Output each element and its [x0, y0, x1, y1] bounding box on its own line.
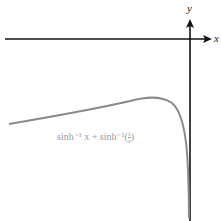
- chart-canvas: [0, 0, 221, 221]
- equation-annotation: sinh⁻¹ x + sinh⁻¹(1x): [57, 131, 134, 144]
- equation-main: sinh⁻¹ x + sinh⁻¹(: [57, 131, 128, 142]
- function-curve: [9, 98, 189, 219]
- x-axis-label: x: [214, 32, 219, 44]
- equation-close: ): [131, 131, 134, 142]
- y-axis-label: y: [187, 2, 192, 14]
